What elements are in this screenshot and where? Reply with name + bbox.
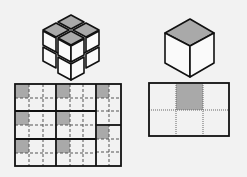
right-grid — [149, 83, 229, 136]
shaded-cell — [176, 84, 203, 110]
shaded-cell — [16, 85, 29, 98]
left-grid — [15, 84, 121, 166]
left-cube — [43, 15, 99, 80]
shaded-cell — [57, 140, 70, 153]
right-cube — [165, 19, 214, 77]
shaded-cell — [57, 85, 70, 98]
cube-edge — [56, 52, 58, 53]
shaded-cell — [97, 85, 109, 98]
cube-edge — [84, 52, 86, 53]
shaded-cell — [57, 112, 70, 125]
diagram-canvas — [0, 0, 247, 177]
shaded-cell — [16, 112, 29, 125]
shaded-cell — [16, 140, 29, 153]
shaded-cell — [97, 126, 109, 139]
